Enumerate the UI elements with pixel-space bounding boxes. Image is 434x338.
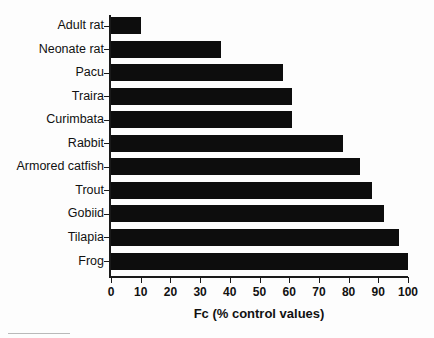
bar-chart: Adult ratNeonate ratPacuTrairaCurimbataR… — [0, 0, 434, 338]
bar — [111, 229, 399, 246]
y-axis-tick — [104, 261, 110, 262]
category-label: Adult rat — [57, 18, 104, 32]
x-axis-tick — [141, 277, 142, 283]
y-axis-tick — [104, 214, 110, 215]
category-label: Neonate rat — [39, 42, 104, 56]
y-axis-tick — [104, 120, 110, 121]
x-axis-tick — [111, 277, 112, 283]
y-axis-tick — [104, 73, 110, 74]
y-axis-tick — [104, 26, 110, 27]
x-axis-tick — [349, 277, 350, 283]
x-axis-tick — [408, 277, 409, 283]
page-scan-rule — [8, 333, 70, 334]
bar — [111, 88, 292, 105]
bar — [111, 182, 372, 199]
category-label: Curimbata — [46, 112, 104, 126]
y-axis-tick — [104, 49, 110, 50]
category-label: Armored catfish — [16, 159, 104, 173]
category-label: Rabbit — [68, 136, 104, 150]
x-axis-tick — [289, 277, 290, 283]
bar — [111, 253, 408, 270]
bar — [111, 41, 221, 58]
category-label: Gobiid — [68, 206, 104, 220]
x-axis-tick — [319, 277, 320, 283]
category-label: Pacu — [76, 65, 105, 79]
bar — [111, 111, 292, 128]
y-axis-tick — [104, 190, 110, 191]
x-axis-tick-label: 100 — [391, 285, 425, 299]
chart-screenshot: Adult ratNeonate ratPacuTrairaCurimbataR… — [0, 0, 434, 338]
x-axis-title: Fc (% control values) — [110, 306, 408, 321]
x-axis-tick — [170, 277, 171, 283]
bar — [111, 17, 141, 34]
x-axis-tick — [230, 277, 231, 283]
y-axis-tick — [104, 96, 110, 97]
y-axis-tick — [104, 143, 110, 144]
x-axis-tick — [378, 277, 379, 283]
category-label: Frog — [78, 254, 104, 268]
category-label: Traira — [72, 89, 104, 103]
bar — [111, 158, 360, 175]
y-axis-tick — [104, 167, 110, 168]
category-label: Trout — [75, 183, 104, 197]
x-axis-tick — [260, 277, 261, 283]
bar — [111, 205, 384, 222]
x-axis-tick — [200, 277, 201, 283]
bar — [111, 135, 343, 152]
bar — [111, 64, 283, 81]
y-axis-tick — [104, 237, 110, 238]
category-label: Tilapia — [68, 230, 104, 244]
